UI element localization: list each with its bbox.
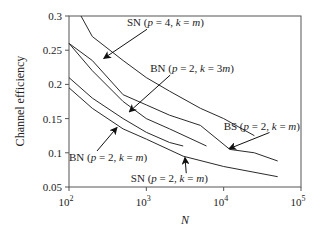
annotation-arrow-sn-p4: [104, 29, 147, 58]
x-tick-label: 102: [59, 194, 74, 208]
y-axis-title: Channel efficiency: [13, 56, 27, 147]
y-tick-label: 0.2: [48, 78, 62, 90]
annotation-arrow-bn-km: [97, 127, 117, 151]
y-tick-label: 0.1: [48, 147, 62, 159]
annotation-bn-km: BN (p = 2, k = m): [69, 151, 147, 164]
series-line-bn-p-2-k-m: [69, 78, 183, 146]
annotation-arrow-bs: [229, 133, 269, 149]
annotations-group: SN (p = 4, k = m)BN (p = 2, k = 3m)BS (p…: [69, 16, 300, 185]
annotation-bs: BS (p = 2, k = m): [224, 120, 301, 133]
channel-efficiency-chart: 0.050.10.150.20.250.3 102103104105 SN (p…: [0, 0, 321, 235]
y-tick-label: 0.15: [43, 113, 63, 125]
y-tick-label: 0.3: [48, 10, 62, 22]
x-tick-label: 105: [291, 194, 306, 208]
x-axis-title: N: [180, 213, 190, 227]
annotation-bn-k3m: BN (p = 2, k = 3m): [150, 62, 234, 75]
x-tick-label: 103: [136, 194, 151, 208]
series-line-sn-p-2-k-m: [69, 88, 278, 177]
annotation-sn-p4: SN (p = 4, k = m): [127, 16, 204, 29]
annotation-arrow-sn-p2: [185, 158, 186, 174]
annotation-sn-p2: SN (p = 2, k = m): [131, 172, 208, 185]
x-axis: 102103104105: [59, 187, 306, 208]
y-tick-label: 0.25: [43, 44, 63, 56]
y-tick-label: 0.05: [43, 181, 63, 193]
y-axis: 0.050.10.150.20.250.3: [43, 10, 69, 193]
x-tick-label: 104: [213, 194, 228, 208]
